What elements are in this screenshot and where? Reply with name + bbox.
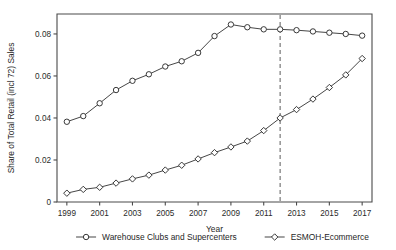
y-axis-tick-label: 0.06 — [35, 72, 51, 81]
series-1-data-point — [294, 27, 299, 32]
series-2-data-point — [162, 167, 168, 173]
series-1-data-point — [212, 33, 217, 38]
series-1-data-point — [195, 50, 200, 55]
series-2-data-point — [293, 106, 299, 112]
x-axis-tick-label: 1999 — [58, 209, 77, 218]
legend-label-2: ESMOH-Ecommerce — [291, 232, 370, 242]
series-2-data-point — [211, 149, 217, 155]
x-axis-tick-label: 2017 — [353, 209, 372, 218]
series-1-data-point — [277, 27, 282, 32]
line-chart: 00.020.040.060.0819992001200320052007200… — [0, 0, 396, 250]
series-1-data-point — [228, 22, 233, 27]
chart-figure: 00.020.040.060.0819992001200320052007200… — [0, 0, 396, 250]
series-2-data-point — [96, 184, 102, 190]
series-1-data-point — [359, 33, 364, 38]
series-2-data-point — [178, 162, 184, 168]
series-1-data-point — [146, 72, 151, 77]
series-1-data-point — [81, 113, 86, 118]
series-2-data-point — [244, 138, 250, 144]
series-2-data-point — [195, 156, 201, 162]
x-axis-tick-label: 2013 — [287, 209, 306, 218]
series-2-data-point — [80, 186, 86, 192]
series-1-data-point — [245, 25, 250, 30]
series-2-data-point — [146, 172, 152, 178]
x-axis-tick-label: 2007 — [189, 209, 208, 218]
x-axis-tick-label: 2003 — [123, 209, 142, 218]
legend-label-1: Warehouse Clubs and Supercenters — [102, 232, 237, 242]
series-1-data-point — [130, 78, 135, 83]
x-axis-tick-label: 2011 — [255, 209, 273, 218]
series-2-data-point — [228, 144, 234, 150]
series-1-data-point — [163, 64, 168, 69]
series-1-data-point — [64, 119, 69, 124]
series-2-data-point — [64, 190, 70, 196]
series-1-data-point — [310, 29, 315, 34]
series-2-data-point — [113, 180, 119, 186]
series-1-data-point — [343, 31, 348, 36]
x-axis-tick-label: 2001 — [91, 209, 110, 218]
y-axis-tick-label: 0.08 — [35, 30, 51, 39]
legend-marker-1 — [83, 234, 88, 239]
x-axis-tick-label: 2005 — [156, 209, 175, 218]
series-1-data-point — [113, 87, 118, 92]
series-1-data-point — [261, 27, 266, 32]
x-axis-tick-label: 2015 — [320, 209, 339, 218]
series-2-data-point — [310, 96, 316, 102]
series-2-data-point — [129, 176, 135, 182]
series-1-data-point — [179, 59, 184, 64]
legend-marker-2 — [271, 234, 277, 240]
plot-frame — [57, 14, 372, 202]
y-axis-tick-label: 0 — [46, 198, 51, 207]
y-axis-tick-label: 0.04 — [35, 114, 51, 123]
series-1-data-point — [327, 30, 332, 35]
x-axis-tick-label: 2009 — [222, 209, 241, 218]
series-line-2 — [67, 59, 362, 194]
y-axis-title: Share of Total Retail (incl 72) Sales — [6, 43, 16, 174]
y-axis-tick-label: 0.02 — [35, 156, 51, 165]
series-1-data-point — [97, 101, 102, 106]
